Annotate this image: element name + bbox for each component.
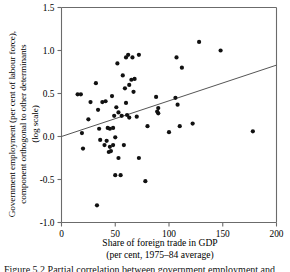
data-point: [81, 146, 85, 150]
data-point: [114, 105, 118, 109]
data-point: [96, 108, 100, 112]
data-point: [88, 100, 92, 104]
data-point: [180, 66, 184, 70]
data-point: [102, 143, 106, 147]
data-point: [143, 179, 147, 183]
data-point: [133, 77, 137, 81]
data-point: [109, 149, 113, 153]
data-point: [126, 53, 130, 57]
figure-container: Government employment (per cent of labou…: [0, 0, 290, 272]
data-point: [219, 48, 223, 52]
data-point: [113, 173, 117, 177]
y-axis-tick-label: 0.0: [43, 132, 55, 142]
data-point: [174, 55, 178, 59]
y-axis-tick-label: -0.5: [40, 175, 55, 185]
data-point: [105, 139, 109, 143]
y-axis-tick-label: 0.5: [43, 89, 55, 99]
data-point: [124, 101, 128, 105]
data-point: [95, 203, 99, 207]
data-point: [135, 115, 139, 119]
data-point: [98, 138, 102, 142]
data-point: [127, 115, 131, 119]
data-point: [112, 114, 116, 118]
data-point: [176, 103, 180, 107]
data-point: [173, 96, 177, 100]
y-axis-tick-label: 1.0: [43, 46, 55, 56]
x-axis-label: Share of foreign trade in GDP (per cent,…: [40, 237, 280, 260]
data-point: [79, 92, 83, 96]
trendline: [62, 65, 277, 136]
data-point: [127, 83, 131, 87]
data-point: [156, 111, 160, 115]
data-point: [131, 90, 135, 94]
data-point: [178, 124, 182, 128]
data-point: [119, 173, 123, 177]
x-axis-label-line2: (per cent, 1975–84 average): [40, 249, 280, 261]
data-point: [94, 81, 98, 85]
data-point: [156, 106, 160, 110]
data-point: [197, 40, 201, 44]
data-point: [251, 129, 255, 133]
data-point: [111, 143, 115, 147]
data-point: [130, 55, 134, 59]
data-point: [80, 131, 84, 135]
data-point: [97, 127, 101, 131]
data-point: [122, 143, 126, 147]
figure-caption: Figure 5.2 Partial correlation between g…: [4, 264, 290, 272]
data-point: [86, 117, 90, 121]
data-point: [121, 73, 125, 77]
data-point: [123, 86, 127, 90]
data-point: [116, 156, 120, 160]
data-point: [113, 135, 117, 139]
data-point: [116, 110, 120, 114]
scatter-plot: 1.51.00.50.0-0.5-1.0050100150200: [0, 0, 290, 272]
data-points-group: [76, 40, 255, 208]
data-point: [110, 94, 114, 98]
data-point: [103, 99, 107, 103]
data-point: [191, 122, 195, 126]
data-point: [167, 130, 171, 134]
data-point: [115, 61, 119, 65]
data-point: [154, 95, 158, 99]
x-axis-label-line1: Share of foreign trade in GDP: [40, 237, 280, 249]
data-point: [120, 114, 124, 118]
y-axis-tick-label: 1.5: [43, 3, 55, 13]
data-point: [145, 124, 149, 128]
y-axis-tick-label: -1.0: [40, 218, 55, 228]
data-point: [137, 156, 141, 160]
data-point: [137, 53, 141, 57]
data-point: [111, 126, 115, 130]
